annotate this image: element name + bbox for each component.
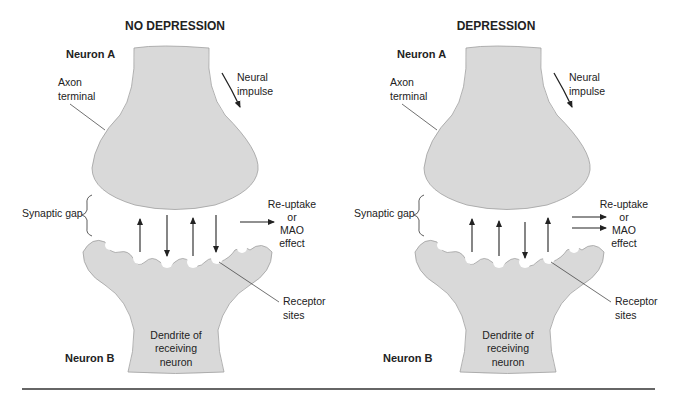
reuptake-label-2: or <box>619 211 629 223</box>
impulse-label-2: impulse <box>237 85 273 97</box>
panel-no-depression: NO DEPRESSION Neuron A Axon terminal Neu… <box>22 19 326 374</box>
impulse-label-2: impulse <box>569 85 605 97</box>
reuptake-label-4: effect <box>611 237 637 249</box>
axon-label-2: terminal <box>390 90 427 102</box>
dendrite-label-2: receiving <box>487 342 529 354</box>
dendrite-label-3: neuron <box>160 356 193 368</box>
neuron-a-label: Neuron A <box>66 48 115 60</box>
panel-depression: DEPRESSION Neuron A Axon terminal Neural… <box>354 19 658 374</box>
reuptake-label-3: MAO <box>612 224 636 236</box>
dendrite-label-1: Dendrite of <box>482 329 533 341</box>
receptor-label-1: Receptor <box>615 295 658 307</box>
dendrite-label-2: receiving <box>155 342 197 354</box>
dendrite-label-1: Dendrite of <box>150 329 201 341</box>
reuptake-label-3: MAO <box>280 224 304 236</box>
panel-title: NO DEPRESSION <box>125 19 225 33</box>
synaptic-gap-label: Synaptic gap <box>354 207 415 219</box>
dendrite-label-3: neuron <box>492 356 525 368</box>
axon-label-1: Axon <box>58 76 82 88</box>
impulse-label-1: Neural <box>569 71 600 83</box>
gap-brace <box>82 195 92 236</box>
neuron-a-label: Neuron A <box>397 48 446 60</box>
axon-terminal-shape <box>92 46 258 210</box>
panel-title: DEPRESSION <box>457 19 536 33</box>
neuron-b-label: Neuron B <box>383 352 433 364</box>
gap-brace <box>414 195 424 236</box>
axon-leader-line <box>402 104 437 130</box>
reuptake-label-2: or <box>287 211 297 223</box>
impulse-label-1: Neural <box>237 71 268 83</box>
synaptic-gap-label: Synaptic gap <box>22 207 83 219</box>
receptor-label-2: sites <box>283 309 305 321</box>
receptor-label-2: sites <box>615 309 637 321</box>
axon-terminal-shape <box>424 46 590 210</box>
reuptake-label-4: effect <box>279 237 305 249</box>
reuptake-label-1: Re-uptake <box>268 198 317 210</box>
reuptake-label-1: Re-uptake <box>600 198 649 210</box>
axon-label-2: terminal <box>58 90 95 102</box>
axon-leader-line <box>70 104 105 130</box>
neuron-b-label: Neuron B <box>65 352 115 364</box>
axon-label-1: Axon <box>390 76 414 88</box>
synapse-diagram: NO DEPRESSION Neuron A Axon terminal Neu… <box>0 0 675 396</box>
receptor-label-1: Receptor <box>283 295 326 307</box>
